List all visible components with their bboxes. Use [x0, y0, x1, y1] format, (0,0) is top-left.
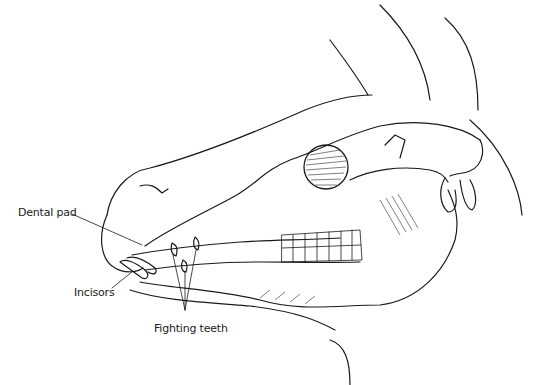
mandible-outline	[140, 190, 457, 307]
zygomatic-arch	[350, 168, 448, 182]
throat-line	[330, 340, 350, 385]
condyle	[441, 178, 476, 212]
cranium-outline	[450, 140, 483, 176]
head-outline	[107, 95, 372, 215]
mandible-hatching	[260, 194, 418, 304]
skull-diagram: Dental pad Incisors Fighting teeth	[0, 0, 534, 385]
fighting-tooth-3	[194, 237, 199, 250]
dental-pad-leader	[72, 214, 142, 245]
incisors-label: Incisors	[74, 286, 114, 299]
mane-outline	[445, 18, 478, 110]
fighting-tooth-1	[171, 243, 177, 256]
dental-pad-label: Dental pad	[18, 206, 77, 219]
nostril-notch	[140, 185, 168, 193]
lower-jaw-line	[145, 262, 360, 270]
incisors-upper	[120, 260, 148, 278]
orbit-hatching	[306, 150, 346, 185]
cheek-teeth	[282, 230, 362, 262]
neck-outline-back	[380, 5, 430, 100]
fighting-teeth-label: Fighting teeth	[154, 322, 228, 335]
upper-jaw-line	[132, 238, 340, 255]
incisors-leader	[112, 272, 132, 288]
postorbital-process	[385, 135, 405, 158]
neck-curve-right	[470, 120, 522, 215]
neck-outline-upper	[330, 40, 368, 95]
eye-orbit	[304, 145, 348, 189]
skull-illustration	[0, 0, 534, 385]
